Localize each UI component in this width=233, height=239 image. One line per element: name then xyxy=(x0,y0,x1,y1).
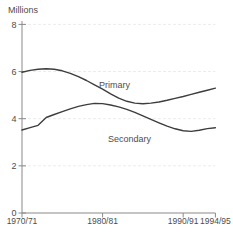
y-tick-label: 8 xyxy=(11,20,16,30)
y-axis-title: Millions xyxy=(8,5,39,15)
x-tick-label: 1980/81 xyxy=(87,216,118,226)
y-tick-label: 2 xyxy=(11,161,16,171)
chart-canvas: 864201970/711980/811990/911994/95Primary… xyxy=(0,0,233,239)
y-tick-label: 6 xyxy=(11,67,16,77)
series-label-primary: Primary xyxy=(99,80,130,90)
x-tick-label: 1970/71 xyxy=(7,216,38,226)
series-line-secondary xyxy=(22,103,215,131)
y-tick-label: 4 xyxy=(11,114,16,124)
pupil-numbers-chart-figure: 864201970/711980/811990/911994/95Primary… xyxy=(0,0,233,239)
x-tick-label: 1990/91 xyxy=(168,216,199,226)
series-label-secondary: Secondary xyxy=(108,134,152,144)
x-tick-label: 1994/95 xyxy=(200,216,231,226)
